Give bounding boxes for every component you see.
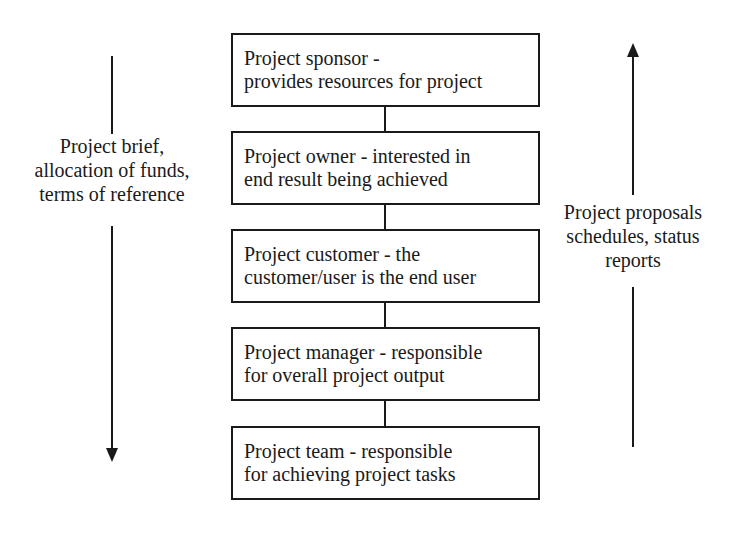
- connector-line: [384, 205, 386, 229]
- box-line: customer/user is the end user: [244, 266, 476, 289]
- box-line: Project sponsor -: [244, 47, 482, 70]
- box-line: end result being achieved: [244, 168, 471, 191]
- box-line: Project team - responsible: [244, 440, 456, 463]
- box-text: Project customer - the customer/user is …: [244, 243, 476, 289]
- label-line: schedules, status: [548, 224, 718, 248]
- label-line: allocation of funds,: [14, 158, 210, 182]
- box-text: Project manager - responsible for overal…: [244, 341, 482, 387]
- left-flow-label: Project brief, allocation of funds, term…: [14, 134, 210, 206]
- label-line: terms of reference: [14, 182, 210, 206]
- connector-line: [384, 401, 386, 426]
- label-line: reports: [548, 248, 718, 272]
- box-text: Project sponsor - provides resources for…: [244, 47, 482, 93]
- connector-line: [384, 107, 386, 131]
- right-flow-label: Project proposals schedules, status repo…: [548, 200, 718, 272]
- up-arrow-shaft-top: [632, 55, 634, 195]
- box-text: Project owner - interested in end result…: [244, 145, 471, 191]
- box-line: Project customer - the: [244, 243, 476, 266]
- box-project-team: Project team - responsible for achieving…: [231, 426, 540, 500]
- down-arrow-shaft-bottom: [111, 226, 113, 450]
- connector-line: [384, 303, 386, 327]
- box-project-owner: Project owner - interested in end result…: [231, 131, 540, 205]
- label-line: Project brief,: [14, 134, 210, 158]
- box-project-sponsor: Project sponsor - provides resources for…: [231, 33, 540, 107]
- down-arrow-shaft-top: [111, 56, 113, 134]
- box-line: for achieving project tasks: [244, 463, 456, 486]
- box-line: provides resources for project: [244, 70, 482, 93]
- arrow-down-icon: [106, 448, 118, 462]
- box-line: for overall project output: [244, 364, 482, 387]
- label-line: Project proposals: [548, 200, 718, 224]
- box-text: Project team - responsible for achieving…: [244, 440, 456, 486]
- box-project-manager: Project manager - responsible for overal…: [231, 327, 540, 401]
- box-line: Project manager - responsible: [244, 341, 482, 364]
- box-project-customer: Project customer - the customer/user is …: [231, 229, 540, 303]
- up-arrow-shaft-bottom: [632, 287, 634, 447]
- box-line: Project owner - interested in: [244, 145, 471, 168]
